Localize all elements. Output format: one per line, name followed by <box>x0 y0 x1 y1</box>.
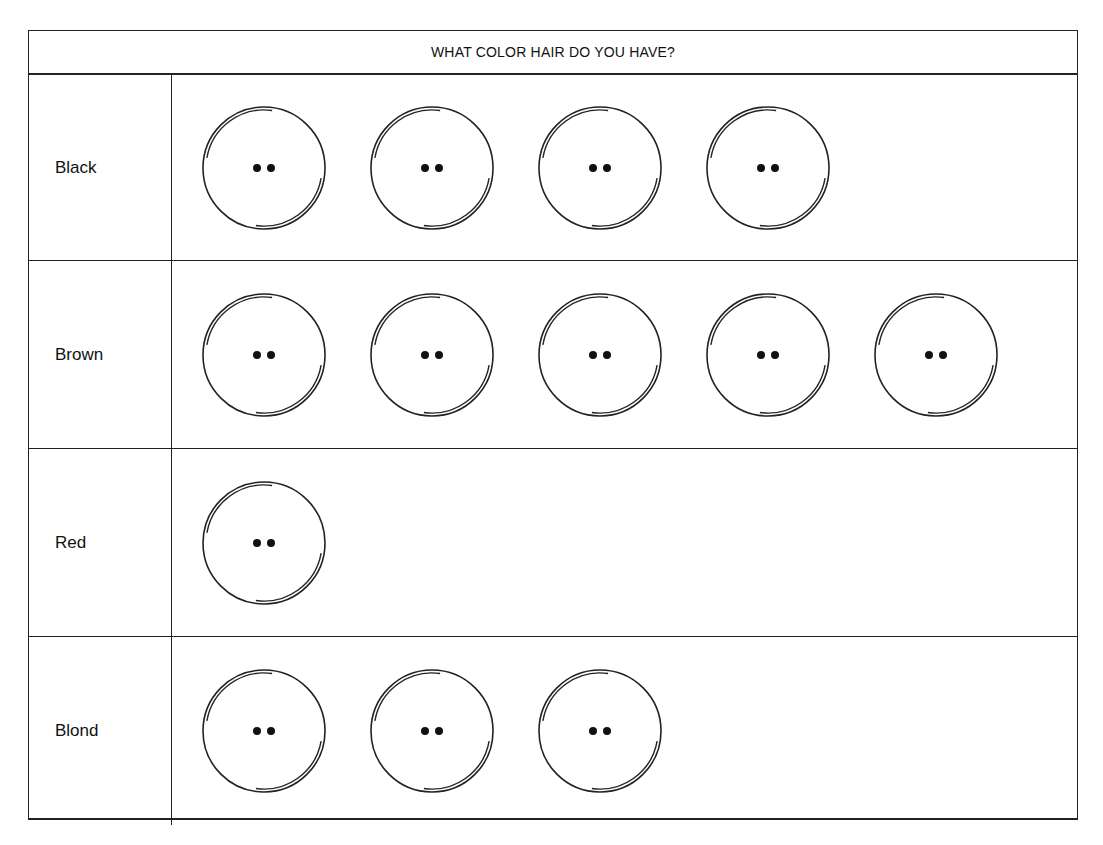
smiley-face-icon <box>200 104 328 232</box>
row-label: Black <box>29 75 172 260</box>
row-blond: Blond <box>29 637 1077 825</box>
faces-cell <box>172 75 1077 260</box>
smiley-face-icon <box>368 667 496 795</box>
row-brown: Brown <box>29 261 1077 449</box>
row-red: Red <box>29 449 1077 637</box>
smiley-face-icon <box>704 291 832 419</box>
smiley-face-icon <box>200 291 328 419</box>
smiley-face-icon <box>368 104 496 232</box>
smiley-face-icon <box>368 291 496 419</box>
smiley-face-icon <box>536 291 664 419</box>
smiley-face-icon <box>704 104 832 232</box>
pictograph-table: WHAT COLOR HAIR DO YOU HAVE? Black Brown… <box>28 30 1078 820</box>
smiley-face-icon <box>536 667 664 795</box>
row-label: Red <box>29 449 172 636</box>
smiley-face-icon <box>200 479 328 607</box>
row-label: Brown <box>29 261 172 448</box>
faces-cell <box>172 449 1077 636</box>
smiley-face-icon <box>200 667 328 795</box>
rows-container: Black Brown Red Blond <box>29 75 1077 825</box>
faces-cell <box>172 637 1077 825</box>
smiley-face-icon <box>872 291 1000 419</box>
smiley-face-icon <box>536 104 664 232</box>
chart-title: WHAT COLOR HAIR DO YOU HAVE? <box>29 31 1077 75</box>
faces-cell <box>172 261 1077 448</box>
row-black: Black <box>29 75 1077 261</box>
row-label: Blond <box>29 637 172 825</box>
